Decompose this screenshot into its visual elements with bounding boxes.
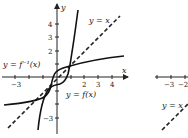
inverse-function-graph: −3 2 3 4 4 3 2 −3 y x y = x y = f⁻¹(x) y… <box>0 0 188 138</box>
panel2-identity-label: y = x <box>161 101 183 110</box>
tick-label: −3 <box>43 115 53 123</box>
f-label: y = f(x) <box>65 90 96 99</box>
identity-label: y = x <box>88 16 110 25</box>
x-axis-label: x <box>122 66 127 75</box>
tick-label: 2 <box>82 81 86 89</box>
tick-label: 3 <box>48 34 52 42</box>
tick-label: −3 <box>11 81 21 89</box>
tick-label: 3 <box>96 81 100 89</box>
f-inverse-label: y = f⁻¹(x) <box>2 60 40 69</box>
y-axis-label: y <box>60 3 66 12</box>
panel2-tick-label: −3 <box>164 81 174 89</box>
tick-label: 4 <box>110 81 115 89</box>
identity-line <box>8 16 120 128</box>
tick-label: 4 <box>48 21 53 29</box>
panel2-tick-label: −2 <box>178 81 188 89</box>
tick-label: 2 <box>48 48 52 56</box>
